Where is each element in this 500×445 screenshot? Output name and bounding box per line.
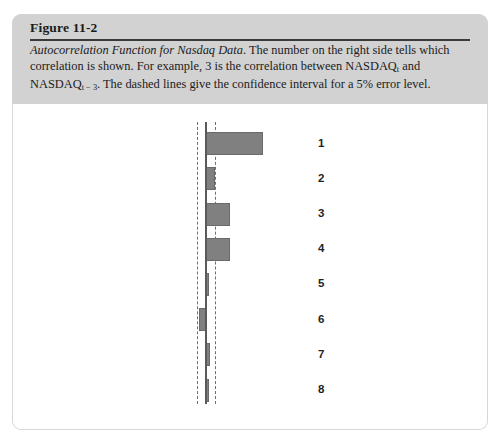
- figure-caption-band: Figure 11-2 Autocorrelation Function for…: [12, 14, 488, 104]
- acf-bar-lag-3: [206, 203, 230, 226]
- lag-label-1: 1: [318, 137, 324, 149]
- confidence-interval-line-lower: [197, 122, 198, 404]
- plot-panel: 12345678: [12, 104, 488, 430]
- zero-axis-line: [205, 122, 207, 404]
- caption-body-part-3: . The dashed lines give the confidence i…: [97, 77, 431, 91]
- figure-number-label: Figure 11-2: [30, 20, 98, 36]
- acf-bar-lag-1: [206, 132, 263, 155]
- confidence-interval-line-upper: [215, 122, 216, 404]
- acf-chart: 12345678: [13, 104, 488, 430]
- lag-label-6: 6: [318, 313, 324, 325]
- figure-card: Figure 11-2 Autocorrelation Function for…: [12, 14, 488, 430]
- lag-label-5: 5: [318, 277, 324, 289]
- lag-label-8: 8: [318, 383, 324, 395]
- caption-divider-rule: [30, 39, 470, 41]
- lag-label-4: 4: [318, 242, 324, 254]
- acf-bar-lag-2: [206, 167, 215, 190]
- figure-caption-text: Autocorrelation Function for Nasdaq Data…: [30, 43, 476, 95]
- lag-label-3: 3: [318, 207, 324, 219]
- lag-label-7: 7: [318, 348, 324, 360]
- caption-subscript-t-minus-3: t − 3: [82, 83, 97, 92]
- caption-title: Autocorrelation Function for Nasdaq Data: [30, 43, 243, 57]
- acf-bar-lag-4: [206, 238, 230, 261]
- lag-label-2: 2: [318, 172, 324, 184]
